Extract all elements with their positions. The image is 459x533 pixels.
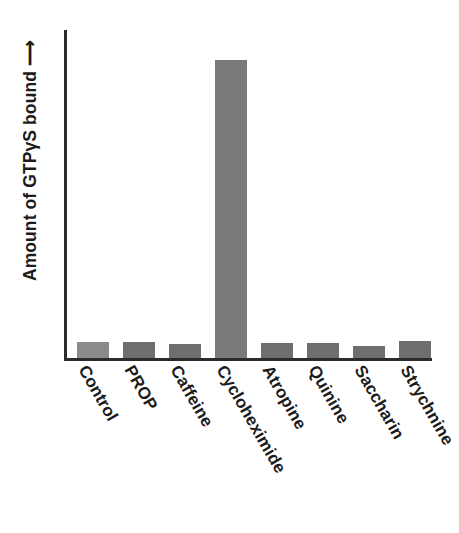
- x-axis-tick-labels: ControlPROPCaffeineCycloheximideAtropine…: [64, 362, 432, 530]
- bar-saccharin: [353, 346, 385, 358]
- x-tick-label-atropine: Atropine: [257, 362, 310, 433]
- y-axis-title: Amount of GTPγS bound ⟶: [20, 11, 41, 311]
- plot-area: [64, 30, 432, 361]
- bar-control: [77, 342, 109, 358]
- y-axis-title-container: Amount of GTPγS bound ⟶: [0, 0, 58, 360]
- chart-figure: Amount of GTPγS bound ⟶ ControlPROPCaffe…: [0, 0, 459, 533]
- bar-series: [67, 30, 432, 358]
- bar-quinine: [307, 343, 339, 358]
- bar-strychnine: [399, 341, 431, 358]
- x-tick-label-prop: PROP: [119, 362, 161, 414]
- x-tick-label-quinine: Quinine: [303, 362, 352, 427]
- bar-atropine: [261, 343, 293, 358]
- bar-prop: [123, 342, 155, 358]
- x-tick-label-strychnine: Strychnine: [395, 362, 457, 449]
- bar-cycloheximide: [215, 60, 247, 358]
- x-tick-label-control: Control: [73, 362, 121, 425]
- bar-caffeine: [169, 344, 201, 358]
- x-axis-line: [64, 358, 432, 361]
- x-tick-label-caffeine: Caffeine: [165, 362, 216, 431]
